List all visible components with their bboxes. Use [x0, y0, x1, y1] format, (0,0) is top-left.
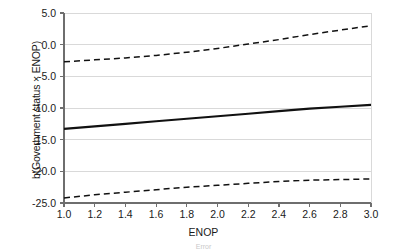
marginal-effect-plot: b(Government status × ENOP) 5.00.0-5.0-1… — [0, 0, 407, 251]
x-axis-title: ENOP — [0, 226, 407, 238]
x-axis-tick-labels: 1.01.21.41.61.82.02.22.42.62.83.0 — [0, 0, 407, 251]
x-tick-label: 3.0 — [351, 209, 391, 219]
figure-caption: Error — [0, 243, 407, 251]
